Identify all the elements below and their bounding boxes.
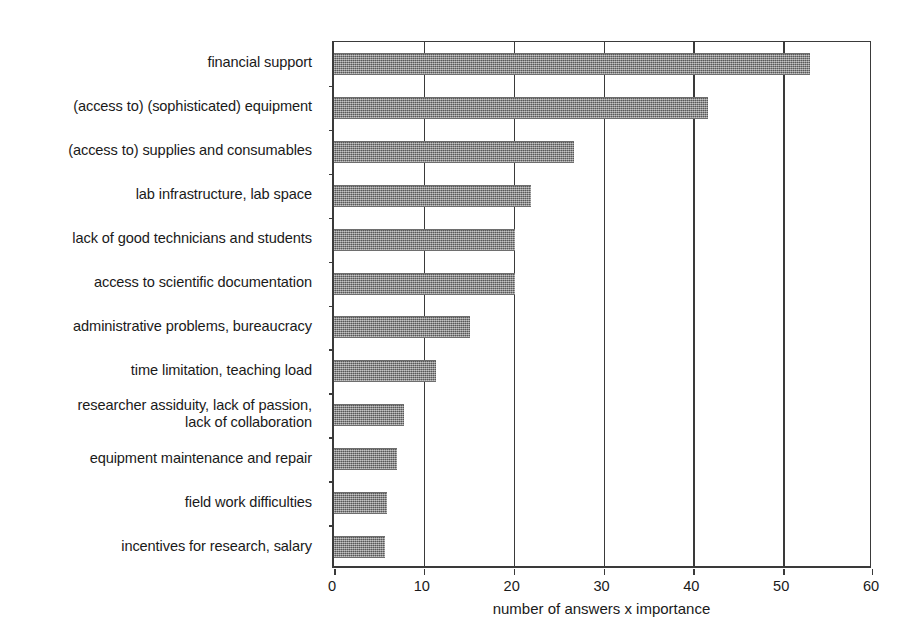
category-label-line: (access to) (sophisticated) equipment [73,98,312,114]
bar-chart: financial support(access to) (sophistica… [0,0,923,630]
x-tick-label-10: 10 [414,578,430,595]
x-tick-60 [872,569,874,575]
bar [334,185,531,207]
gridline-x-50 [783,42,785,566]
category-label-line: financial support [207,54,312,70]
x-tick-20 [514,569,516,575]
bar [334,53,810,75]
gridline-x-30 [604,42,606,566]
category-label: access to scientific documentation [0,274,312,291]
x-tick-30 [604,569,606,575]
category-label-line: lack of good technicians and students [72,230,312,246]
gridline-x-20 [514,42,516,566]
y-tick [329,218,334,220]
x-tick-label-50: 50 [773,578,789,595]
category-label-line: time limitation, teaching load [131,362,312,378]
x-tick-50 [783,569,785,575]
y-tick [329,525,334,527]
category-label-line: equipment maintenance and repair [90,450,312,466]
bar [334,229,515,251]
bar [334,141,574,163]
bar [334,492,387,514]
bar [334,97,708,119]
x-axis-title: number of answers x importance [332,600,871,618]
category-label-line: lab infrastructure, lab space [136,186,312,202]
x-tick-0 [334,569,336,575]
x-tick-label-30: 30 [593,578,609,595]
category-label: time limitation, teaching load [0,362,312,379]
y-tick [329,262,334,264]
x-tick-label-20: 20 [504,578,520,595]
category-label-line: field work difficulties [185,494,312,510]
bar [334,536,385,558]
category-label-line: researcher assiduity, lack of passion, [78,397,312,413]
y-tick [329,481,334,483]
x-tick-10 [424,569,426,575]
category-label: lack of good technicians and students [0,230,312,247]
x-axis-tick-labels: 0102030405060 [332,578,871,598]
x-tick-label-60: 60 [863,578,879,595]
y-tick [329,174,334,176]
category-label: (access to) (sophisticated) equipment [0,98,312,115]
category-label: lab infrastructure, lab space [0,186,312,203]
bar [334,316,470,338]
category-axis-labels: financial support(access to) (sophistica… [0,41,322,568]
gridline-x-40 [693,42,695,566]
category-label-line: lack of collaboration [0,414,312,431]
category-label-line: incentives for research, salary [121,538,312,554]
y-tick [329,437,334,439]
category-label-line: administrative problems, bureaucracy [73,318,312,334]
category-label: financial support [0,54,312,71]
category-label: administrative problems, bureaucracy [0,318,312,335]
category-label-line: access to scientific documentation [94,274,312,290]
x-tick-40 [693,569,695,575]
y-tick [329,393,334,395]
category-label: field work difficulties [0,494,312,511]
category-label: equipment maintenance and repair [0,450,312,467]
bar [334,448,397,470]
x-tick-label-40: 40 [683,578,699,595]
x-tick-label-0: 0 [328,578,336,595]
y-tick [329,130,334,132]
y-tick [329,349,334,351]
category-label: researcher assiduity, lack of passion,la… [0,397,312,431]
category-label: (access to) supplies and consumables [0,142,312,159]
category-label: incentives for research, salary [0,538,312,555]
bar [334,360,436,382]
category-label-line: (access to) supplies and consumables [68,142,312,158]
bar [334,404,404,426]
gridline-x-10 [424,42,426,566]
y-tick [329,306,334,308]
y-tick [329,86,334,88]
bar [334,273,515,295]
plot-area [332,41,871,568]
